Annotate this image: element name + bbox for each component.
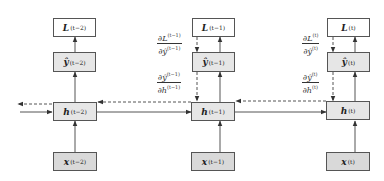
grad-num-sup: (t) [312,71,318,77]
hidden-symbol: h [201,107,208,117]
loss-box-t-minus-2: L(t−2) [53,18,96,37]
grad-loss-output-t: ∂L(t) ∂ŷ(t) [302,31,319,55]
input-sup: (t−2) [70,158,86,165]
hidden-symbol: h [341,106,348,116]
grad-den-sup: (t) [312,84,318,90]
hidden-sup: (t−2) [71,108,87,115]
loss-sup: (t−1) [209,24,225,31]
grad-num-sup: (t) [312,32,318,38]
input-symbol: x [64,157,69,167]
hidden-sup: (t) [348,107,355,114]
grad-output-hidden-t-minus-1: ∂ŷ(t−1) ∂h(t−1) [157,70,181,94]
grad-output-hidden-t: ∂ŷ(t) ∂h(t) [302,70,319,94]
loss-symbol: L [63,23,69,33]
output-symbol: ŷ [63,57,68,67]
grad-den: ∂ŷ [158,46,167,55]
hidden-symbol: h [63,107,70,117]
loss-sup: (t−2) [70,24,86,31]
input-box-t: x(t) [326,152,370,171]
output-symbol: ŷ [342,57,347,67]
loss-box-t: L(t) [327,18,370,37]
loss-box-t-minus-1: L(t−1) [192,18,235,37]
grad-num-sup: (t−1) [167,32,180,38]
output-symbol: ŷ [202,57,207,67]
grad-den-sup: (t) [312,45,318,51]
grad-den-sup: (t−1) [167,45,180,51]
output-sup: (t−1) [209,59,225,66]
hidden-box-t: h(t) [326,101,370,120]
grad-num: ∂ŷ [303,73,312,82]
output-sup: (t) [348,59,355,66]
grad-den-sup: (t−1) [167,84,180,90]
input-box-t-minus-1: x(t−1) [191,152,235,171]
input-sup: (t) [348,158,355,165]
output-box-t: ŷ(t) [327,52,370,72]
grad-den: ∂h [158,85,167,94]
output-box-t-minus-2: ŷ(t−2) [53,52,96,72]
loss-symbol: L [341,23,347,33]
grad-num: ∂ŷ [158,73,167,82]
grad-num-sup: (t−1) [167,71,180,77]
loss-sup: (t) [349,24,356,31]
output-sup: (t−2) [70,59,86,66]
hidden-sup: (t−1) [209,108,225,115]
input-symbol: x [341,157,346,167]
output-box-t-minus-1: ŷ(t−1) [192,52,235,72]
input-box-t-minus-2: x(t−2) [53,152,97,171]
grad-den: ∂ŷ [303,46,312,55]
hidden-box-t-minus-1: h(t−1) [191,102,235,121]
input-sup: (t−1) [208,158,224,165]
grad-loss-output-t-minus-1: ∂L(t−1) ∂ŷ(t−1) [157,31,182,55]
grad-den: ∂h [303,85,312,94]
loss-symbol: L [202,23,208,33]
hidden-box-t-minus-2: h(t−2) [53,102,97,121]
input-symbol: x [202,157,207,167]
